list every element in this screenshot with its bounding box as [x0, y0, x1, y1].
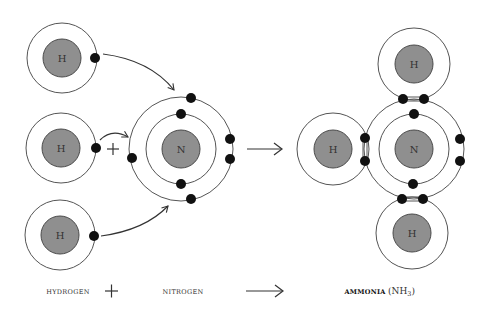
element-symbol: H: [329, 144, 338, 155]
ammonia-molecule: H H H N: [297, 28, 465, 269]
label-reaction-arrow: [246, 285, 283, 297]
electron: [409, 109, 419, 119]
electron: [418, 194, 428, 204]
electron: [89, 231, 99, 241]
label-formula: (NH3): [388, 286, 415, 298]
arrow-icon: [101, 206, 168, 236]
electron: [360, 156, 370, 166]
reaction-arrow: [247, 143, 282, 155]
ammonia-hydrogen-top: H: [378, 28, 450, 100]
plus-sign-labels: [105, 285, 118, 298]
label-nitrogen: NITROGEN: [163, 288, 204, 296]
ammonia-hydrogen-left: H: [297, 113, 369, 185]
label-hydrogen: HYDROGEN: [46, 288, 89, 296]
electron: [408, 179, 418, 189]
element-symbol: H: [410, 59, 419, 70]
ammonia-nitrogen: N: [364, 99, 465, 199]
arrow-icon: [103, 54, 174, 90]
electron: [186, 93, 196, 103]
electron: [91, 143, 101, 153]
ammonia-formation-diagram: H H H N: [0, 0, 491, 312]
electron: [398, 94, 408, 104]
electron: [360, 133, 370, 143]
element-symbol: H: [58, 53, 67, 64]
electron: [186, 194, 196, 204]
hydrogen-atom-1: H: [27, 23, 100, 93]
element-symbol: N: [177, 144, 186, 155]
electron: [225, 134, 235, 144]
electron: [419, 94, 429, 104]
arrow-icon: [100, 133, 128, 140]
label-ammonia: AMMONIA: [343, 288, 386, 296]
element-symbol: H: [408, 228, 417, 239]
electron: [397, 194, 407, 204]
element-symbol: H: [57, 143, 66, 154]
element-symbol: N: [410, 144, 419, 155]
ammonia-hydrogen-bottom: H: [376, 197, 448, 269]
plus-sign-reactants: [107, 143, 119, 155]
element-symbol: H: [56, 230, 65, 241]
electron: [90, 53, 100, 63]
electron: [176, 109, 186, 119]
electron: [455, 134, 465, 144]
electron: [176, 179, 186, 189]
electron: [127, 153, 137, 163]
hydrogen-atom-3: H: [25, 200, 99, 270]
nitrogen-atom: N: [127, 93, 235, 204]
electron: [455, 156, 465, 166]
electron: [225, 154, 235, 164]
hydrogen-atom-2: H: [26, 113, 101, 183]
